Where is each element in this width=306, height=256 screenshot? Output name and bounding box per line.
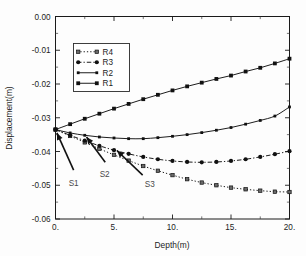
series-r3: [53, 127, 291, 164]
data-point-marker: [95, 50, 98, 53]
x-axis-title: Depth(m): [155, 240, 190, 250]
x-tick-label: 10.: [167, 223, 178, 232]
data-point-marker: [112, 153, 115, 156]
data-point-marker: [171, 173, 174, 176]
data-point-marker: [156, 93, 160, 97]
x-tick-label: 15.: [225, 223, 236, 232]
data-point-marker: [287, 149, 291, 153]
data-point-marker: [244, 157, 248, 161]
data-point-marker: [95, 81, 99, 85]
x-tick-label: 0.: [52, 223, 59, 232]
data-point-marker: [186, 133, 189, 136]
data-point-marker: [244, 123, 247, 126]
legend-label: R4: [103, 48, 114, 57]
series-r2: [54, 106, 291, 141]
data-point-marker: [142, 164, 145, 167]
data-point-marker: [258, 155, 262, 159]
data-point-marker: [142, 137, 145, 140]
data-point-marker: [156, 169, 159, 172]
figure-container: 0.5.10.15.20. 0.00-0.01-0.02-0.03-0.04-0…: [0, 0, 306, 256]
data-point-marker: [141, 155, 145, 159]
data-point-marker: [113, 137, 116, 140]
data-point-marker: [215, 184, 218, 187]
data-point-marker: [200, 81, 204, 85]
data-point-marker: [127, 102, 131, 106]
y-axis-title: Displacement(m): [4, 86, 14, 150]
data-point-marker: [170, 159, 174, 163]
data-point-marker: [273, 152, 277, 156]
legend-label: R1: [103, 79, 114, 88]
data-point-marker: [171, 135, 174, 138]
data-point-marker: [112, 107, 116, 111]
data-point-marker: [54, 128, 58, 132]
data-point-marker: [76, 81, 80, 85]
data-point-marker: [214, 160, 218, 164]
y-tick-label: -0.03: [32, 114, 51, 123]
data-point-marker: [76, 60, 80, 64]
y-axis-tick-labels: 0.00-0.01-0.02-0.03-0.04-0.05-0.06: [32, 13, 51, 225]
data-point-marker: [68, 122, 72, 126]
data-point-marker: [97, 144, 101, 148]
chart-legend[interactable]: R4R3R2R1: [74, 44, 130, 92]
y-tick-label: -0.06: [32, 215, 51, 224]
data-point-marker: [259, 189, 262, 192]
data-point-marker: [230, 126, 233, 129]
x-axis-tick-labels: 0.5.10.15.20.: [52, 223, 295, 232]
data-point-marker: [273, 190, 276, 193]
x-tick-label: 5.: [111, 223, 118, 232]
data-point-marker: [288, 57, 292, 61]
data-point-marker: [156, 136, 159, 139]
data-point-marker: [288, 190, 291, 193]
annotation-s1: S1: [57, 133, 79, 188]
annotation-label: S3: [145, 180, 155, 189]
data-point-marker: [200, 131, 203, 134]
data-point-marker: [200, 181, 203, 184]
y-tick-label: -0.02: [32, 80, 51, 89]
data-point-marker: [214, 77, 218, 81]
data-point-marker: [83, 134, 86, 137]
data-point-marker: [258, 66, 262, 70]
data-point-marker: [215, 129, 218, 132]
annotation-label: S1: [69, 179, 79, 188]
annotation-s2: S2: [87, 137, 111, 180]
data-point-marker: [127, 137, 130, 140]
data-point-marker: [185, 177, 188, 180]
y-tick-label: -0.04: [32, 148, 51, 157]
data-point-marker: [229, 74, 233, 78]
y-tick-label: 0.00: [35, 13, 51, 22]
data-point-marker: [83, 139, 87, 143]
data-point-marker: [95, 71, 98, 74]
data-point-marker: [244, 70, 248, 74]
data-point-marker: [200, 160, 204, 164]
legend-label: R3: [103, 58, 114, 67]
data-point-marker: [244, 188, 247, 191]
chart-canvas: 0.5.10.15.20. 0.00-0.01-0.02-0.03-0.04-0…: [0, 0, 306, 256]
data-point-marker: [98, 136, 101, 139]
legend-label: R2: [103, 69, 114, 78]
series-line-r3: [56, 130, 290, 163]
data-point-marker: [273, 115, 276, 118]
annotation-label: S2: [100, 170, 110, 179]
data-point-marker: [69, 132, 72, 135]
data-point-marker: [185, 160, 189, 164]
data-point-marker: [185, 84, 189, 88]
annotation-s3: S3: [117, 150, 155, 188]
y-tick-label: -0.05: [32, 181, 51, 190]
data-point-marker: [83, 117, 87, 121]
data-point-marker: [97, 112, 101, 116]
series-line-r2: [56, 107, 290, 139]
data-point-marker: [77, 50, 80, 53]
data-point-marker: [112, 148, 116, 152]
data-point-marker: [156, 157, 160, 161]
data-point-marker: [288, 106, 291, 109]
data-point-marker: [171, 89, 175, 93]
data-point-marker: [273, 62, 277, 66]
x-tick-label: 20.: [284, 223, 295, 232]
y-tick-label: -0.01: [32, 46, 51, 55]
data-point-marker: [77, 71, 80, 74]
annotation-group: S1S2S3: [57, 133, 155, 189]
data-point-marker: [127, 152, 131, 156]
data-point-marker: [259, 119, 262, 122]
legend-box: [74, 44, 130, 92]
data-point-marker: [141, 97, 145, 101]
